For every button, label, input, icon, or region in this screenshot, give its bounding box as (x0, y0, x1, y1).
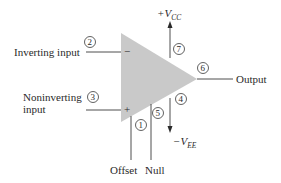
noninverting-input-label-line2: input (23, 103, 46, 115)
pin-2-number: 2 (88, 37, 93, 47)
null-label: Null (145, 164, 165, 176)
vcc-arrow-icon (168, 21, 173, 28)
pin-7-number: 7 (177, 44, 182, 54)
vee-arrow-icon (168, 126, 173, 133)
output-label: Output (236, 73, 267, 85)
inverting-input-label: Inverting input (14, 46, 80, 58)
pin-6-number: 6 (201, 63, 206, 73)
pin-3-number: 3 (91, 92, 96, 102)
inverting-symbol: − (124, 45, 130, 57)
pin-4-number: 4 (179, 94, 184, 104)
pin-5-number: 5 (156, 108, 161, 118)
vee-label: −VEE (173, 135, 197, 150)
vcc-label: +VCC (157, 7, 182, 22)
pin-1-number: 1 (139, 120, 144, 130)
noninverting-symbol: + (124, 103, 130, 115)
op-amp-diagram: − + Inverting input 2 Noninverting input… (0, 0, 281, 183)
offset-label: Offset (110, 164, 137, 176)
noninverting-input-label-line1: Noninverting (23, 91, 82, 103)
